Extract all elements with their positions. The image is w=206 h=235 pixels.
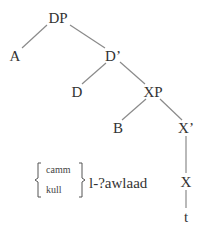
left-brace-icon — [34, 160, 42, 200]
node-d: D — [72, 84, 83, 100]
node-xp: XP — [143, 84, 162, 100]
tree-edges — [0, 0, 206, 235]
edge-dbar-xp — [120, 62, 145, 84]
quantifier-options-bracket: camm kull — [34, 160, 86, 200]
node-b: B — [113, 120, 123, 136]
option-camm: camm — [46, 164, 70, 175]
syntax-tree-diagram: DP A D’ D XP B X’ X t camm kull l-?awlaa… — [0, 0, 206, 235]
edge-dp-a — [22, 25, 47, 48]
node-dp: DP — [48, 10, 67, 26]
node-t: t — [184, 209, 188, 225]
node-a: A — [10, 48, 21, 64]
edge-dp-dbar — [70, 25, 105, 48]
option-kull: kull — [46, 184, 62, 195]
right-brace-icon — [78, 160, 86, 200]
edge-dbar-d — [82, 63, 106, 84]
noun-phrase-text: l-?awlaad — [89, 175, 147, 191]
edge-xp-xbar — [160, 99, 182, 120]
node-x-bar: X’ — [178, 120, 194, 136]
node-x: X — [181, 174, 192, 190]
node-d-bar: D’ — [105, 48, 121, 64]
edge-xp-b — [122, 99, 146, 120]
